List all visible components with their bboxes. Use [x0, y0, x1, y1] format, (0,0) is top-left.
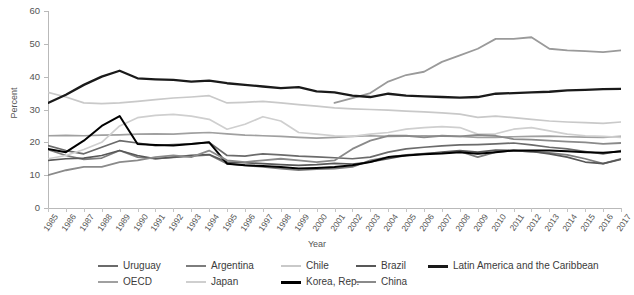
- legend-item-argentina[interactable]: Argentina: [186, 261, 254, 271]
- legend-swatch-korea-rep: [281, 281, 301, 284]
- legend-swatch-oecd: [98, 281, 118, 283]
- legend-label-uruguay: Uruguay: [123, 261, 161, 271]
- series-line-china-upper: [335, 37, 622, 103]
- legend-item-brazil[interactable]: Brazil: [356, 261, 406, 271]
- line-chart: Percent 0102030405060 198519861987198819…: [0, 0, 634, 295]
- y-tick-label: 60: [14, 6, 40, 16]
- legend-swatch-uruguay: [98, 265, 118, 267]
- legend-swatch-chile: [281, 265, 301, 267]
- legend-swatch-china: [356, 281, 376, 283]
- y-tick-label: 30: [14, 105, 40, 115]
- x-axis-title: Year: [0, 239, 634, 249]
- legend-label-latin-america-and-the-caribbean: Latin America and the Caribbean: [453, 261, 599, 271]
- legend-swatch-brazil: [356, 265, 376, 267]
- series-plot: [48, 11, 621, 209]
- series-line-latin-america-and-the-caribbean: [48, 71, 621, 103]
- legend-label-chile: Chile: [306, 261, 329, 271]
- legend-item-latin-america-and-the-caribbean[interactable]: Latin America and the Caribbean: [428, 261, 599, 271]
- legend-item-korea-rep[interactable]: Korea, Rep.: [281, 277, 359, 287]
- chart-legend: UruguayArgentinaChileBrazilLatin America…: [98, 261, 628, 293]
- y-tick-label: 50: [14, 39, 40, 49]
- legend-item-chile[interactable]: Chile: [281, 261, 329, 271]
- y-tick-label: 0: [14, 203, 40, 213]
- legend-item-oecd[interactable]: OECD: [98, 277, 152, 287]
- legend-item-uruguay[interactable]: Uruguay: [98, 261, 161, 271]
- y-tick-label: 20: [14, 137, 40, 147]
- legend-label-korea-rep: Korea, Rep.: [306, 277, 359, 287]
- legend-label-japan: Japan: [211, 277, 238, 287]
- legend-label-oecd: OECD: [123, 277, 152, 287]
- legend-label-argentina: Argentina: [211, 261, 254, 271]
- legend-row: UruguayArgentinaChileBrazilLatin America…: [98, 261, 628, 277]
- legend-item-china[interactable]: China: [356, 277, 407, 287]
- legend-row: OECDJapanKorea, Rep.China: [98, 277, 628, 293]
- x-tick-mark: [621, 208, 622, 212]
- y-tick-label: 10: [14, 170, 40, 180]
- y-tick-label: 40: [14, 72, 40, 82]
- legend-item-japan[interactable]: Japan: [186, 277, 238, 287]
- legend-swatch-japan: [186, 281, 206, 283]
- legend-label-china: China: [381, 277, 407, 287]
- legend-label-brazil: Brazil: [381, 261, 406, 271]
- legend-swatch-latin-america-and-the-caribbean: [428, 265, 448, 268]
- legend-swatch-argentina: [186, 265, 206, 267]
